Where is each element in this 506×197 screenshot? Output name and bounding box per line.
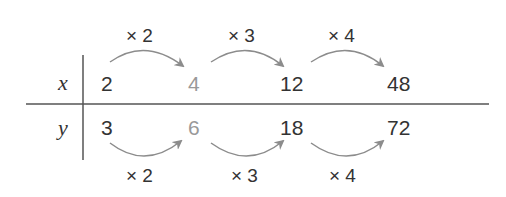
y-value: 72: [387, 116, 410, 140]
row-label-x: x: [58, 70, 68, 96]
multiplier-label-bottom: × 4: [329, 165, 356, 187]
x-value: 4: [188, 72, 200, 96]
y-value: 3: [101, 116, 113, 140]
y-value: 6: [188, 116, 200, 140]
x-value: 2: [101, 72, 113, 96]
arrow-bottom-1: [110, 141, 181, 156]
arrow-top-1: [110, 50, 183, 66]
x-value: 48: [387, 72, 410, 96]
arrow-top-2: [211, 50, 283, 66]
arrow-bottom-2: [211, 141, 283, 156]
arrow-bottom-3: [311, 141, 383, 156]
multiplier-label-bottom: × 2: [126, 165, 153, 187]
y-value: 18: [280, 116, 303, 140]
multiplier-label-top: × 4: [328, 25, 355, 47]
x-value: 12: [280, 72, 303, 96]
multiplier-label-bottom: × 3: [231, 165, 258, 187]
row-label-y: y: [58, 115, 68, 141]
arrow-top-3: [311, 50, 383, 66]
multiplier-label-top: × 2: [126, 25, 153, 47]
multiplier-label-top: × 3: [228, 25, 255, 47]
